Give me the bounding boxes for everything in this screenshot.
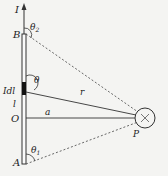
- wire: [22, 34, 26, 164]
- label-b: B: [12, 29, 20, 40]
- label-theta: θ: [34, 75, 40, 85]
- label-current: I: [14, 4, 20, 15]
- label-theta1: θ1: [31, 145, 40, 156]
- wire-field-diagram: I B θ2 Idl θ r l O a θ1 A P: [0, 0, 168, 176]
- label-o: O: [11, 113, 19, 124]
- line-b-to-p: [26, 34, 138, 112]
- theta1-arc: [26, 154, 35, 161]
- label-r: r: [80, 87, 85, 97]
- current-arrow: [22, 3, 27, 34]
- label-idl: Idl: [2, 86, 15, 96]
- label-theta2: θ2: [30, 22, 39, 33]
- label-a: a: [45, 107, 50, 117]
- point-p-field-into-page-icon: [135, 108, 155, 128]
- line-a-to-p: [26, 122, 138, 164]
- current-element: [22, 82, 26, 95]
- label-p: P: [132, 129, 140, 139]
- label-l: l: [13, 99, 16, 109]
- label-a-point: A: [12, 157, 20, 168]
